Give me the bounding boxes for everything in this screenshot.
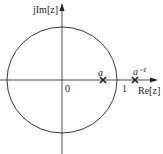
z-plane-diagram: jIm[z] Re[z] 0 1 a a⁻¹ — [0, 0, 163, 154]
origin-label: 0 — [65, 83, 70, 94]
pole-a-label: a — [98, 67, 103, 78]
unit-label: 1 — [122, 83, 127, 94]
imag-axis-arrow-icon — [60, 3, 65, 11]
real-axis-arrow-icon — [150, 78, 158, 83]
pole-a-inverse-label: a⁻¹ — [133, 66, 146, 77]
real-axis-label: Re[z] — [138, 85, 160, 96]
imag-axis-label: jIm[z] — [32, 4, 58, 15]
